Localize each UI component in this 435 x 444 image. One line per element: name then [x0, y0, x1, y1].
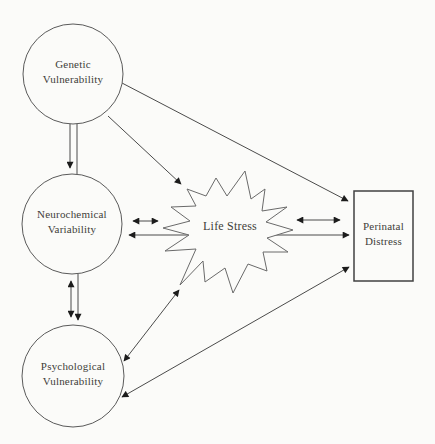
neurochemical-variability-label: Neurochemical Variability — [24, 207, 120, 237]
edge-psychological-lifestress — [124, 290, 179, 361]
genetic-vulnerability-label: Genetic Vulnerability — [28, 57, 118, 87]
life-stress-label: Life Stress — [188, 218, 272, 234]
perinatal-distress-label: Perinatal Distress — [354, 219, 413, 249]
psychological-vulnerability-label: Psychological Vulnerability — [25, 359, 121, 389]
edge-genetic-lifestress — [108, 116, 181, 184]
path-model-diagram: Genetic Vulnerability Neurochemical Vari… — [0, 0, 435, 444]
edge-genetic-perinatal — [122, 83, 348, 201]
